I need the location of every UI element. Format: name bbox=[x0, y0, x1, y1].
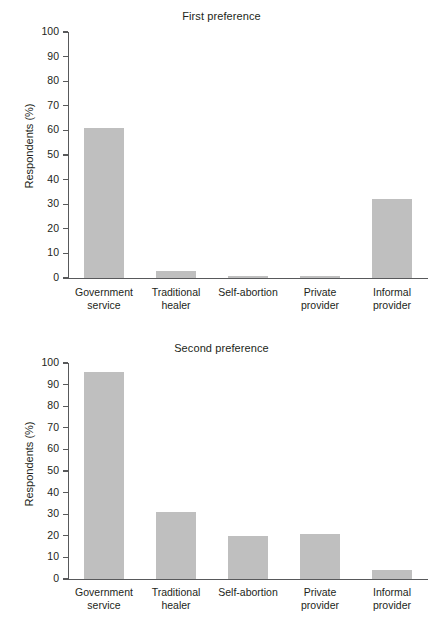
y-tick-label-100: 100 bbox=[29, 356, 59, 368]
chart-panel-first-preference: First preference Respondents (%) 0102030… bbox=[0, 0, 443, 330]
y-tick-label-20: 20 bbox=[29, 529, 59, 541]
x-axis-category-label: Private provider bbox=[284, 286, 356, 311]
y-tick-label-100: 100 bbox=[29, 25, 59, 37]
bar bbox=[300, 276, 340, 278]
y-tick-90 bbox=[63, 56, 68, 57]
x-axis-category-label: Traditional healer bbox=[140, 286, 212, 311]
y-tick-label-0: 0 bbox=[29, 572, 59, 584]
x-axis-category-label: Private provider bbox=[284, 586, 356, 611]
bar bbox=[228, 276, 268, 278]
y-tick-10 bbox=[63, 557, 68, 558]
y-tick-label-90: 90 bbox=[29, 378, 59, 390]
plot-area-second: 0102030405060708090100 bbox=[68, 363, 428, 579]
bar bbox=[372, 570, 412, 579]
bar bbox=[156, 271, 196, 278]
bar bbox=[84, 128, 124, 278]
y-tick-100 bbox=[63, 31, 68, 32]
y-tick-70 bbox=[63, 427, 68, 428]
y-axis-line-second bbox=[68, 363, 69, 579]
y-tick-label-30: 30 bbox=[29, 507, 59, 519]
y-tick-label-90: 90 bbox=[29, 50, 59, 62]
y-tick-40 bbox=[63, 492, 68, 493]
y-tick-label-50: 50 bbox=[29, 464, 59, 476]
chart-panel-second-preference: Second preference Respondents (%) 010203… bbox=[0, 330, 443, 629]
y-tick-label-40: 40 bbox=[29, 173, 59, 185]
y-tick-30 bbox=[63, 514, 68, 515]
chart-title-second: Second preference bbox=[0, 342, 443, 354]
y-tick-50 bbox=[63, 470, 68, 471]
plot-area-first: 0102030405060708090100 bbox=[68, 32, 428, 278]
y-tick-label-60: 60 bbox=[29, 123, 59, 135]
y-tick-60 bbox=[63, 449, 68, 450]
bar bbox=[372, 199, 412, 278]
y-tick-label-10: 10 bbox=[29, 246, 59, 258]
x-axis-line-second bbox=[68, 579, 428, 580]
bar bbox=[228, 536, 268, 579]
y-tick-0 bbox=[63, 578, 68, 579]
y-tick-80 bbox=[63, 81, 68, 82]
chart-title-first: First preference bbox=[0, 10, 443, 22]
y-tick-10 bbox=[63, 253, 68, 254]
y-tick-80 bbox=[63, 406, 68, 407]
y-tick-label-30: 30 bbox=[29, 197, 59, 209]
y-tick-label-70: 70 bbox=[29, 99, 59, 111]
y-tick-label-80: 80 bbox=[29, 399, 59, 411]
y-tick-100 bbox=[63, 362, 68, 363]
y-tick-20 bbox=[63, 535, 68, 536]
x-axis-category-label: Government service bbox=[68, 286, 140, 311]
y-tick-20 bbox=[63, 228, 68, 229]
x-axis-category-label: Self-abortion bbox=[212, 286, 284, 299]
bar bbox=[156, 512, 196, 579]
bar bbox=[84, 372, 124, 579]
y-tick-label-60: 60 bbox=[29, 442, 59, 454]
y-tick-60 bbox=[63, 130, 68, 131]
figure-root: First preference Respondents (%) 0102030… bbox=[0, 0, 443, 629]
y-tick-90 bbox=[63, 384, 68, 385]
y-tick-70 bbox=[63, 105, 68, 106]
x-axis-category-label: Traditional healer bbox=[140, 586, 212, 611]
y-tick-0 bbox=[63, 277, 68, 278]
x-axis-category-label: Self-abortion bbox=[212, 586, 284, 599]
y-tick-label-50: 50 bbox=[29, 148, 59, 160]
y-tick-label-0: 0 bbox=[29, 271, 59, 283]
y-tick-40 bbox=[63, 179, 68, 180]
y-axis-line-first bbox=[68, 32, 69, 278]
bar bbox=[300, 534, 340, 579]
y-tick-label-20: 20 bbox=[29, 222, 59, 234]
x-axis-category-label: Informal provider bbox=[356, 286, 428, 311]
y-tick-label-80: 80 bbox=[29, 74, 59, 86]
y-tick-50 bbox=[63, 154, 68, 155]
y-tick-label-40: 40 bbox=[29, 486, 59, 498]
x-axis-line-first bbox=[68, 278, 428, 279]
y-tick-30 bbox=[63, 204, 68, 205]
y-tick-label-10: 10 bbox=[29, 550, 59, 562]
y-tick-label-70: 70 bbox=[29, 421, 59, 433]
x-axis-category-label: Government service bbox=[68, 586, 140, 611]
x-axis-category-label: Informal provider bbox=[356, 586, 428, 611]
